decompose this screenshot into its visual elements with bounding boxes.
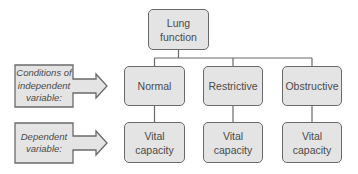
independent-variable-label: Conditions of independent variable: (15, 65, 73, 107)
outcome-node-label: Vital capacity (292, 129, 332, 157)
condition-node-restrictive: Restrictive (203, 66, 263, 106)
condition-node-obstructive: Obstructive (282, 66, 342, 106)
root-node-label: Lung function (149, 16, 208, 44)
outcome-node-vital-capacity-restrictive: Vital capacity (203, 122, 263, 163)
outcome-node-label: Vital capacity (213, 129, 253, 157)
condition-node-label: Restrictive (208, 79, 257, 93)
condition-node-label: Normal (138, 79, 172, 93)
dependent-variable-label-text: Dependent variable: (15, 131, 73, 156)
root-node-lung-function: Lung function (148, 9, 209, 50)
dependent-variable-label: Dependent variable: (15, 123, 73, 163)
outcome-node-label: Vital capacity (135, 129, 175, 157)
independent-variable-label-text: Conditions of independent variable: (15, 67, 73, 105)
lung-function-diagram: Conditions of independent variable: Depe… (0, 0, 358, 174)
outcome-node-vital-capacity-normal: Vital capacity (124, 122, 185, 163)
outcome-node-vital-capacity-obstructive: Vital capacity (282, 122, 342, 163)
condition-node-label: Obstructive (285, 79, 338, 93)
condition-node-normal: Normal (124, 66, 185, 106)
